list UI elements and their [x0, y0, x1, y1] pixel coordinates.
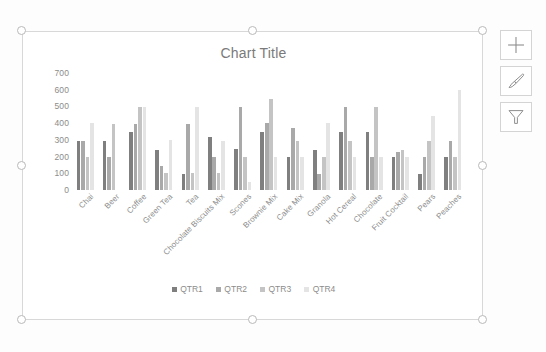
bar-qtr3[interactable]	[86, 157, 90, 190]
bar-qtr3[interactable]	[453, 157, 457, 190]
bar-qtr1[interactable]	[418, 174, 422, 190]
bar-qtr4[interactable]	[90, 123, 94, 190]
legend-item-qtr2[interactable]: QTR2	[216, 284, 247, 294]
bar-qtr4[interactable]	[248, 182, 252, 190]
handle-top-right[interactable]	[478, 26, 487, 35]
bar-qtr2[interactable]	[81, 141, 85, 190]
bar-qtr1[interactable]	[313, 150, 317, 190]
bar-qtr2[interactable]	[212, 157, 216, 190]
bar-qtr2[interactable]	[449, 141, 453, 190]
bar-group[interactable]	[125, 73, 151, 190]
bar-qtr4[interactable]	[405, 157, 409, 190]
handle-middle-right[interactable]	[478, 161, 487, 170]
bar-qtr1[interactable]	[129, 132, 133, 190]
bar-group[interactable]	[98, 73, 124, 190]
y-axis-tick: 700	[37, 69, 69, 78]
bar-group[interactable]	[177, 73, 203, 190]
bar-qtr4[interactable]	[300, 157, 304, 190]
bar-qtr1[interactable]	[155, 150, 159, 190]
bar-qtr1[interactable]	[392, 157, 396, 190]
legend-swatch	[216, 287, 221, 292]
chart-title[interactable]: Chart Title	[23, 45, 484, 61]
bar-qtr2[interactable]	[396, 152, 400, 190]
bar-qtr1[interactable]	[77, 141, 81, 190]
bar-qtr3[interactable]	[401, 150, 405, 190]
bar-qtr2[interactable]	[134, 124, 138, 190]
bar-qtr4[interactable]	[326, 123, 330, 190]
bar-qtr2[interactable]	[291, 128, 295, 190]
plot-area[interactable]	[72, 73, 466, 190]
y-axis[interactable]: 7006005004003002001000	[37, 73, 69, 190]
bar-qtr3[interactable]	[348, 141, 352, 190]
bar-group[interactable]	[440, 73, 466, 190]
bar-group[interactable]	[230, 73, 256, 190]
bar-qtr2[interactable]	[239, 107, 243, 190]
chart-object-frame[interactable]: Chart Title 7006005004003002001000 ChaiB…	[22, 31, 483, 320]
handle-top-left[interactable]	[17, 26, 26, 35]
bar-qtr1[interactable]	[234, 149, 238, 190]
bar-qtr4[interactable]	[221, 141, 225, 190]
bar-qtr3[interactable]	[191, 173, 195, 190]
bar-group[interactable]	[72, 73, 98, 190]
bar-qtr2[interactable]	[423, 157, 427, 190]
bar-qtr3[interactable]	[138, 107, 142, 190]
chart-legend[interactable]: QTR1QTR2QTR3QTR4	[23, 284, 484, 294]
bar-qtr1[interactable]	[208, 137, 212, 190]
bar-qtr4[interactable]	[143, 107, 147, 190]
chart-elements-button[interactable]	[500, 30, 532, 60]
bar-group[interactable]	[413, 73, 439, 190]
y-axis-tick: 0	[37, 186, 69, 195]
bar-qtr2[interactable]	[186, 124, 190, 190]
bar-qtr3[interactable]	[164, 173, 168, 190]
bar-qtr3[interactable]	[427, 141, 431, 190]
legend-item-qtr4[interactable]: QTR4	[304, 284, 335, 294]
chart-filters-button[interactable]	[500, 102, 532, 132]
legend-item-qtr1[interactable]: QTR1	[172, 284, 203, 294]
handle-middle-left[interactable]	[17, 161, 26, 170]
bar-qtr3[interactable]	[269, 99, 273, 190]
bar-qtr4[interactable]	[353, 157, 357, 190]
chart-styles-button[interactable]	[500, 66, 532, 96]
legend-item-qtr3[interactable]: QTR3	[260, 284, 291, 294]
bar-qtr3[interactable]	[243, 157, 247, 190]
bar-qtr1[interactable]	[260, 132, 264, 190]
handle-bottom-middle[interactable]	[248, 315, 257, 324]
bar-group[interactable]	[256, 73, 282, 190]
bar-group[interactable]	[335, 73, 361, 190]
handle-bottom-right[interactable]	[478, 315, 487, 324]
handle-bottom-left[interactable]	[17, 315, 26, 324]
bar-qtr4[interactable]	[195, 107, 199, 190]
bar-qtr4[interactable]	[169, 140, 173, 190]
bar-qtr4[interactable]	[379, 157, 383, 190]
bar-qtr2[interactable]	[160, 166, 164, 190]
bar-group[interactable]	[151, 73, 177, 190]
bar-qtr1[interactable]	[287, 157, 291, 190]
bar-qtr3[interactable]	[112, 124, 116, 190]
bar-group[interactable]	[282, 73, 308, 190]
bar-qtr3[interactable]	[296, 141, 300, 190]
bar-qtr3[interactable]	[217, 173, 221, 190]
bar-qtr4[interactable]	[431, 116, 435, 190]
bar-qtr2[interactable]	[370, 157, 374, 190]
bar-qtr3[interactable]	[322, 157, 326, 190]
bar-qtr1[interactable]	[444, 157, 448, 190]
bar-qtr4[interactable]	[458, 90, 462, 190]
bar-group[interactable]	[203, 73, 229, 190]
bar-group[interactable]	[387, 73, 413, 190]
bar-qtr2[interactable]	[265, 123, 269, 190]
bar-qtr3[interactable]	[374, 107, 378, 190]
bar-qtr1[interactable]	[103, 141, 107, 190]
bar-qtr1[interactable]	[182, 174, 186, 190]
funnel-icon	[506, 107, 526, 127]
bar-qtr1[interactable]	[366, 132, 370, 190]
bar-group[interactable]	[308, 73, 334, 190]
bar-qtr2[interactable]	[344, 107, 348, 190]
handle-top-middle[interactable]	[248, 26, 257, 35]
legend-label: QTR4	[313, 284, 336, 294]
bar-qtr4[interactable]	[274, 157, 278, 190]
bar-qtr2[interactable]	[317, 174, 321, 190]
bar-qtr1[interactable]	[339, 132, 343, 190]
bar-group[interactable]	[361, 73, 387, 190]
bar-qtr2[interactable]	[107, 157, 111, 190]
x-axis-label: Tea	[185, 192, 201, 208]
